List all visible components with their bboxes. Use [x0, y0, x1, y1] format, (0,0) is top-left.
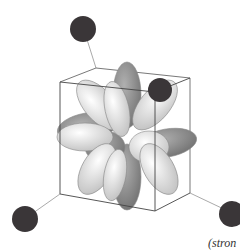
ligand-bottom-left: [12, 206, 38, 232]
ligand-top-left: [70, 16, 96, 42]
caption-text: (stron: [208, 236, 236, 251]
orbital-diagram: [0, 0, 240, 252]
ligand-bottom-right: [219, 201, 240, 227]
ligand-top-right: [148, 78, 172, 102]
